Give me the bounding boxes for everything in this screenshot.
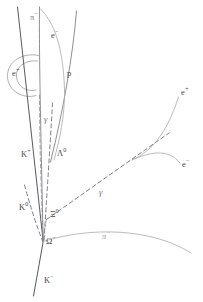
label-pi-minus-bottom: π−	[102, 232, 111, 241]
track-k-minus-outgoing	[34, 242, 44, 297]
track-primary-vertical	[39, 7, 43, 242]
label-k-minus: K−	[44, 276, 54, 285]
label-omega-minus: Ω−	[46, 237, 56, 246]
label-xi-zero: Ξ0	[50, 210, 59, 219]
track-e-plus-spiral-inner	[16, 61, 37, 91]
label-gamma-right: γ	[99, 188, 102, 197]
label-k-zero: K0	[19, 203, 28, 212]
label-e-minus-top: e−	[51, 31, 58, 40]
label-proton: p	[67, 69, 71, 78]
label-e-minus-right: e−	[182, 160, 189, 169]
label-pi-minus-top: π−	[30, 13, 38, 22]
label-gamma-upper: γ	[44, 115, 47, 124]
label-e-plus-right: e+	[181, 88, 188, 97]
label-k-plus: K+	[21, 150, 31, 159]
track-pi-minus-bottom	[43, 232, 191, 253]
label-e-plus-spiral: e+	[12, 69, 19, 78]
track-e-plus-right	[132, 97, 179, 160]
bubble-chamber-diagram: π− e− e+ p γ K+ Λ0 e+ e− γ K0 Ξ0 Ω− π− K…	[0, 0, 203, 302]
label-lambda-zero: Λ0	[57, 149, 66, 158]
